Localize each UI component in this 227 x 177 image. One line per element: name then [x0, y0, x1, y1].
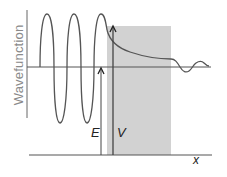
- y-axis-label: Wavefunction: [11, 25, 26, 106]
- energy-label: E: [91, 125, 100, 140]
- x-axis-label: x: [193, 153, 199, 167]
- potential-label: V: [117, 125, 126, 140]
- wavefunction-transmitted: [171, 59, 209, 72]
- tunneling-diagram: Wavefunction E V x: [0, 0, 227, 177]
- diagram-graphics: [0, 0, 227, 177]
- wavefunction-incident: [40, 14, 107, 123]
